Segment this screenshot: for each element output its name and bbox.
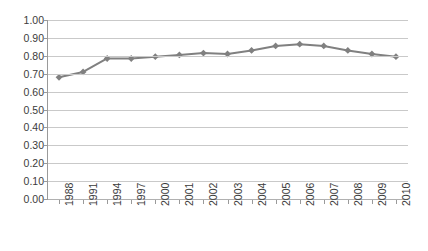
x-axis-tick-mark [155,200,156,204]
x-axis-tick-mark [131,200,132,204]
y-axis-tick-mark [44,56,48,57]
line-chart: 1.000.900.800.700.600.500.400.300.200.10… [0,0,428,251]
plot-area [47,20,408,199]
y-axis-tick-mark [44,110,48,111]
x-axis-tick-mark [396,200,397,204]
y-axis-tick-label: 0.50 [2,105,44,116]
y-axis-tick-mark [44,20,48,21]
gridline [47,74,408,75]
gridline [47,56,408,57]
x-axis-tick-mark [179,200,180,204]
data-point-marker [296,41,303,48]
y-axis-tick-label: 0.20 [2,158,44,169]
x-axis-tick-mark [276,200,277,204]
data-point-marker [56,74,63,81]
y-axis-tick-label: 0.90 [2,33,44,44]
y-axis-tick-label: 0.30 [2,140,44,151]
x-axis-tick-label: 2000 [160,183,171,206]
x-axis-tick-mark [203,200,204,204]
y-axis-tick-mark [44,92,48,93]
y-axis-tick-label: 0.60 [2,87,44,98]
x-axis-tick-label: 2009 [377,183,388,206]
y-axis-tick-label: 0.80 [2,51,44,62]
gridline [47,20,408,21]
y-axis-tick-mark [44,38,48,39]
x-axis-tick-mark [107,200,108,204]
data-point-marker [320,43,327,50]
x-axis-tick-label: 1988 [64,183,75,206]
x-axis-tick-mark [372,200,373,204]
x-axis-tick-mark [324,200,325,204]
y-axis-tick-label: 0.70 [2,69,44,80]
y-axis-tick-mark [44,199,48,200]
x-axis-tick-label: 2008 [353,183,364,206]
y-axis-tick-label: 1.00 [2,15,44,26]
x-axis-tick-label: 1994 [112,183,123,206]
y-axis-tick-mark [44,181,48,182]
y-axis-labels: 1.000.900.800.700.600.500.400.300.200.10… [0,0,44,251]
x-axis-tick-label: 2007 [329,183,340,206]
y-axis-tick-label: 0.00 [2,194,44,205]
gridline [47,38,408,39]
x-axis-tick-label: 2003 [233,183,244,206]
x-axis-tick-mark [252,200,253,204]
y-axis-tick-label: 0.40 [2,122,44,133]
x-axis-tick-mark [228,200,229,204]
gridline [47,127,408,128]
x-axis-tick-mark [83,200,84,204]
x-axis-tick-mark [59,200,60,204]
x-axis-tick-label: 2002 [208,183,219,206]
gridline [47,163,408,164]
data-point-marker [272,43,279,50]
gridline [47,92,408,93]
x-axis-tick-mark [348,200,349,204]
x-axis-tick-label: 2005 [281,183,292,206]
series-polyline [59,44,396,77]
y-axis-tick-label: 0.10 [2,176,44,187]
y-axis-tick-mark [44,145,48,146]
x-axis-tick-label: 2001 [184,183,195,206]
y-axis-tick-mark [44,127,48,128]
y-axis-tick-mark [44,74,48,75]
x-axis-tick-label: 2004 [257,183,268,206]
data-point-marker [344,47,351,54]
x-axis-tick-mark [300,200,301,204]
gridline [47,145,408,146]
y-axis-tick-mark [44,163,48,164]
x-axis-tick-label: 2006 [305,183,316,206]
x-axis-tick-label: 2010 [401,183,412,206]
gridline [47,110,408,111]
x-axis-tick-label: 1997 [136,183,147,206]
data-point-marker [248,47,255,54]
x-axis-tick-label: 1991 [88,183,99,206]
